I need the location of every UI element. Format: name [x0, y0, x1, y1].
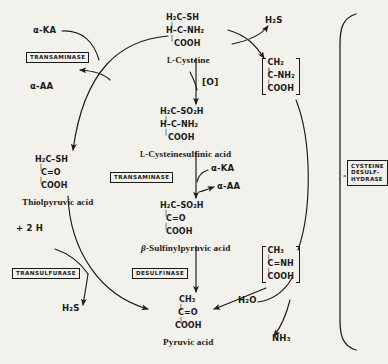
compound-name-pyruvic-acid: Pyruvic acid [163, 338, 213, 347]
cysteinesulfinic-name: -Cysteinesulfinic acid [145, 149, 231, 159]
reactant-water: H₂O [238, 296, 257, 305]
arrow-upper-to-lower-intermediate [296, 100, 308, 250]
structure-l-cysteine: H₂C–SH | H–C–NH₂ | COOH [166, 14, 204, 49]
cofactor-alpha-ka-top: α-KA [33, 26, 56, 35]
label-plus-two-hydrogen: + 2 H [16, 224, 43, 233]
lower-intermediate-line-2: C=NH [268, 260, 295, 269]
cysteine-name: -Cysteine [172, 55, 210, 65]
product-h2s-bottom: H₂S [62, 304, 80, 313]
upper-intermediate-line-1: CH₂ [268, 59, 295, 68]
sulfinylpyruvic-line-3: COOH [160, 228, 204, 237]
desulfhydrase-line-2: DESULF- [351, 169, 384, 176]
structure-pyruvic-acid: CH₃ | C=O | COOH [175, 296, 202, 331]
upper-bracket-right [296, 58, 300, 95]
compound-name-l-cysteinesulfinic-acid: L-Cysteinesulfinic acid [140, 150, 231, 159]
enzyme-transaminase-mid[interactable]: TRANSAMINASE [110, 172, 173, 183]
arrow-alpha-ka-mid-in [197, 170, 208, 182]
upper-intermediate-line-2: C–NH₂ [268, 72, 295, 81]
cofactor-alpha-aa-mid: α-AA [217, 182, 240, 191]
product-ammonia: NH₃ [272, 334, 291, 343]
compound-name-thiolpyruvic-acid: Thiolpyruvic acid [22, 198, 93, 207]
structure-lower-intermediate: CH₃ | C=NH | COOH [266, 246, 296, 283]
structure-upper-intermediate: CH₂ ‖ C–NH₂ | COOH [266, 58, 296, 95]
cofactor-alpha-ka-mid: α-KA [211, 164, 234, 173]
enzyme-transulfurase[interactable]: TRANSULFURASE [12, 268, 80, 279]
product-h2s-top: H₂S [265, 16, 283, 25]
enzyme-desulfinase[interactable]: DESULFINASE [132, 268, 188, 279]
arrow-alpha-aa-top-out [80, 70, 110, 80]
sulfinylpyruvic-name: -Sulfinylpyruvic acid [146, 243, 231, 253]
desulfhydrase-line-1: CYSTEINE [351, 163, 384, 170]
arrow-thiolpyruvic-to-pyruvic [68, 196, 148, 309]
structure-l-cysteinesulfinic-acid: H₂C–SO₂H | H–C–NH₂ | COOH [160, 108, 204, 143]
lower-bracket-right [296, 246, 300, 283]
lower-intermediate-line-1: CH₃ [268, 247, 295, 256]
structure-thiolpyruvic-acid: H₂C–SH | C=O | COOH [35, 156, 68, 191]
arrow-h2s-release-bottom [83, 274, 88, 305]
upper-intermediate-line-3: COOH [268, 85, 295, 94]
enzyme-cysteine-desulfhydrase[interactable]: CYSTEINE DESULF- HYDRASE [347, 160, 388, 186]
desulfhydrase-line-3: HYDRASE [351, 176, 384, 183]
arrow-ammonia-release [274, 300, 290, 336]
compound-name-l-cysteine: L-Cysteine [167, 56, 210, 65]
pyruvic-line-3: COOH [175, 322, 202, 331]
intermediate-lower-bracket: CH₃ | C=NH | COOH [262, 246, 300, 283]
cofactor-alpha-aa-top: α-AA [30, 82, 53, 91]
lower-intermediate-line-3: COOH [268, 273, 295, 282]
label-oxidation: [O] [202, 78, 218, 87]
enzyme-transaminase-top[interactable]: TRANSAMINASE [26, 52, 89, 63]
structure-beta-sulfinylpyruvic-acid: H₂C–SO₂H | C=O | COOH [160, 202, 204, 237]
arrow-alpha-aa-mid-out [199, 187, 214, 192]
intermediate-upper-bracket: CH₂ ‖ C–NH₂ | COOH [262, 58, 300, 95]
compound-name-beta-sulfinylpyruvic-acid: β-Sulfinylpyruvic acid [141, 244, 230, 253]
